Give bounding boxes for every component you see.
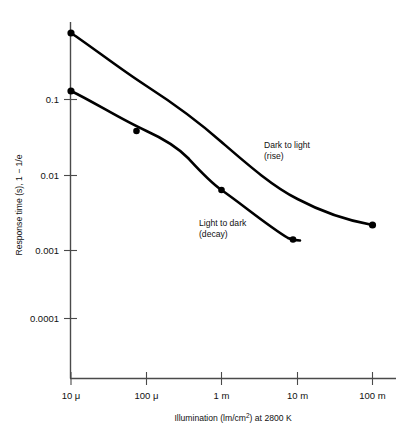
x-tick-label-0: 10 μ bbox=[62, 390, 81, 401]
data-point-rise-100m bbox=[369, 221, 376, 228]
data-point-rise-10u bbox=[67, 29, 74, 36]
annotation-dark-to-light-line1: Dark to light bbox=[264, 140, 310, 150]
x-axis-title-before: Illumination (lm/cm bbox=[174, 413, 246, 423]
x-tick-label-2: 1 m bbox=[214, 390, 230, 401]
chart-figure: 0.1 0.01 0.001 0.0001 10 μ 100 μ 1 m 10 … bbox=[0, 0, 407, 434]
x-tick-label-1: 100 μ bbox=[135, 390, 159, 401]
y-tick-label-3: 0.0001 bbox=[30, 313, 59, 324]
y-axis-title: Response time (s), 1 − 1/e bbox=[14, 154, 24, 255]
data-point-decay-1m bbox=[218, 187, 225, 194]
data-point-decay-100u bbox=[133, 128, 140, 135]
y-tick-label-0: 0.1 bbox=[46, 94, 59, 105]
chart-background bbox=[0, 0, 407, 434]
y-tick-label-1: 0.01 bbox=[41, 170, 60, 181]
x-axis-title-after: ) at 2800 K bbox=[250, 413, 292, 423]
annotation-light-to-dark-line1: Light to dark bbox=[199, 218, 247, 228]
y-tick-label-2: 0.001 bbox=[35, 245, 59, 256]
x-axis-title: Illumination (lm/cm2) at 2800 K bbox=[174, 412, 292, 423]
x-tick-label-3: 10 m bbox=[287, 390, 308, 401]
data-point-decay-10m bbox=[290, 236, 297, 243]
response-time-vs-illumination-chart: 0.1 0.01 0.001 0.0001 10 μ 100 μ 1 m 10 … bbox=[0, 0, 407, 434]
x-tick-label-4: 100 m bbox=[359, 390, 385, 401]
annotation-light-to-dark-line2: (decay) bbox=[199, 229, 228, 239]
data-point-decay-10u bbox=[67, 87, 74, 94]
annotation-dark-to-light-line2: (rise) bbox=[264, 151, 284, 161]
